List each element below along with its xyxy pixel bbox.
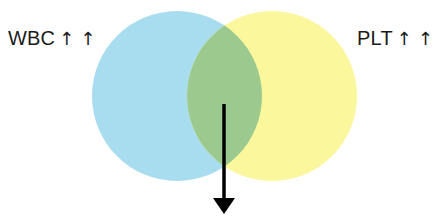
wbc-label-text: WBC [8, 27, 55, 49]
wbc-increase-arrows-icon: ↑ ↑ [59, 28, 96, 49]
plt-increase-arrows-icon: ↑ ↑ [397, 28, 434, 49]
plt-label: PLT↑ ↑ [357, 27, 433, 50]
plt-label-text: PLT [357, 27, 393, 49]
wbc-label: WBC↑ ↑ [8, 27, 96, 50]
